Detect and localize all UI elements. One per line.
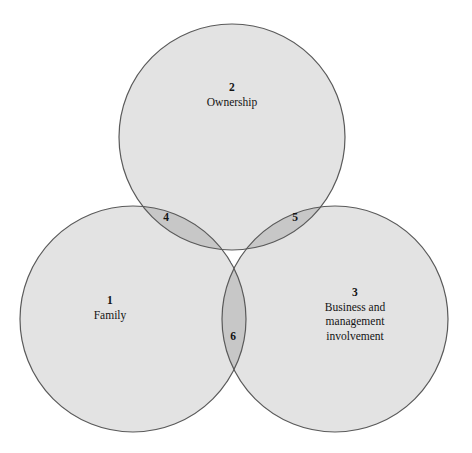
venn-diagram: 2 Ownership 1 Family 3 Business and mana… [0,0,472,453]
set-title-ownership: Ownership [182,95,282,110]
region-number-5: 5 [287,212,303,224]
region-number-7: 7 [225,254,241,266]
set-label-ownership: 2 Ownership [182,80,282,109]
set-number-2: 2 [182,80,282,95]
venn-circles-canvas [0,0,472,453]
set-number-1: 1 [68,293,152,308]
region-number-6: 6 [225,331,241,343]
set-number-3: 3 [300,285,410,300]
set-label-family: 1 Family [68,293,152,322]
set-label-business: 3 Business and management involvement [300,285,410,344]
region-number-4: 4 [158,212,174,224]
set-title-business: Business and management involvement [300,300,410,344]
set-title-family: Family [68,308,152,323]
